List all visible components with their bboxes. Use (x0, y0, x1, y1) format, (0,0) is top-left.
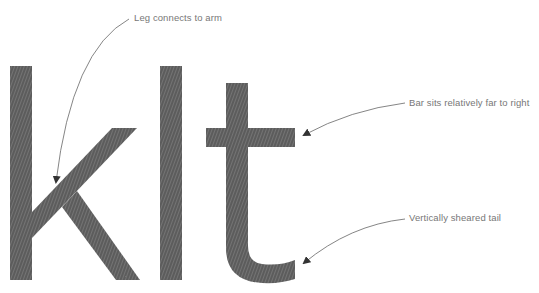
t-crossbar (206, 128, 295, 147)
glyph-l (160, 66, 182, 280)
glyph-t (206, 83, 295, 283)
annotation-tail: Vertically sheared tail (409, 212, 501, 223)
annotation-bar: Bar sits relatively far to right (409, 97, 529, 108)
glyph-diagram (0, 0, 539, 293)
arrow-tail (304, 219, 405, 263)
t-stem-and-tail (226, 83, 295, 283)
annotation-leg: Leg connects to arm (134, 12, 222, 23)
glyph-k (10, 66, 140, 280)
k-leg (62, 191, 140, 280)
arrow-bar (304, 103, 405, 135)
l-stem (160, 66, 182, 280)
k-stem (10, 66, 32, 280)
